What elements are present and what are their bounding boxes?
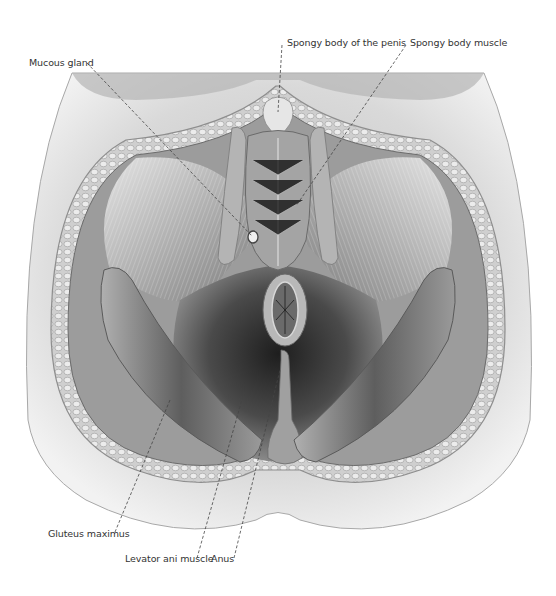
label-gluteus-maximus: Gluteus maximus (48, 529, 130, 539)
label-spongy-body-muscle: Spongy body muscle (410, 38, 507, 48)
label-mucous-gland: Mucous gland (29, 58, 94, 68)
anatomy-figure: Mucous gland Spongy body of the penis Sp… (0, 0, 556, 596)
label-levator-ani-muscle: Levator ani muscle (125, 554, 214, 564)
label-anus: Anus (211, 554, 234, 564)
pelvic-floor-illustration (0, 0, 556, 596)
label-spongy-body-of-the-penis: Spongy body of the penis (287, 38, 406, 48)
